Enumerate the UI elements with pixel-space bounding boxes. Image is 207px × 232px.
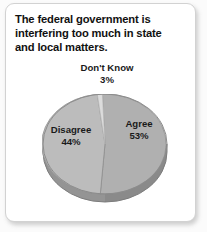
pie-svg [42, 94, 168, 206]
slice-label-dont-know-name: Don't Know [58, 62, 156, 74]
page-title: The federal government is interfering to… [15, 12, 187, 55]
slice-label-agree-name: Agree [110, 118, 168, 130]
slice-label-disagree-value: 44% [36, 136, 106, 148]
screenshot-root: The federal government is interfering to… [0, 0, 207, 232]
pie-chart: Don't Know 3% [6, 54, 195, 221]
slice-label-disagree: Disagree 44% [36, 124, 106, 147]
slice-label-dont-know: Don't Know 3% [58, 62, 156, 85]
slice-label-dont-know-value: 3% [58, 74, 156, 86]
slice-label-agree: Agree 53% [110, 118, 168, 141]
title-line-1: The federal government is [15, 12, 187, 26]
title-line-3: and local matters. [15, 40, 187, 54]
title-line-2: interfering too much in state [15, 26, 187, 40]
slice-label-disagree-name: Disagree [36, 124, 106, 136]
slice-label-agree-value: 53% [110, 130, 168, 142]
chart-card: The federal government is interfering to… [5, 3, 196, 222]
pie-graphic [42, 94, 168, 206]
